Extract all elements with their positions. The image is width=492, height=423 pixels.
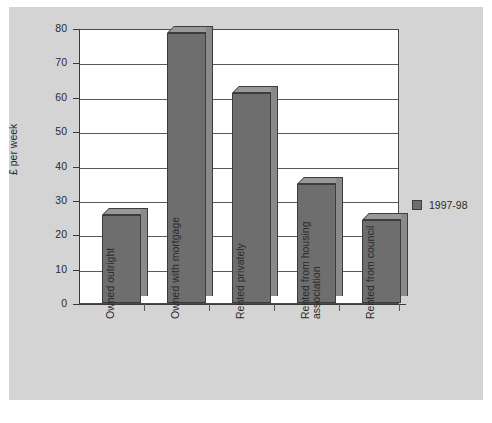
y-tick-label-70: 70 [27,57,67,68]
y-tick-70 [73,63,80,64]
x-label-rented-from-housing-association-line2: association [311,266,322,319]
y-axis-title: £ per week [7,85,19,175]
chart-figure: 80 70 60 50 40 30 20 10 0 £ per week Own… [9,7,483,400]
y-tick-label-40: 40 [27,161,67,172]
y-tick-label-0: 0 [27,298,67,309]
y-tick-label-20: 20 [27,229,67,240]
x-label-rented-privately: Rented privately [235,243,246,319]
x-label-owned-outright: Owned outright [105,248,116,319]
y-tick-10 [73,270,80,271]
y-tick-60 [73,98,80,99]
x-tick-4 [339,304,340,311]
chart-legend: 1997-98 [412,199,468,211]
bar-side-face [141,208,148,296]
bar-side-face [401,213,408,296]
y-tick-50 [73,132,80,133]
legend-label-1997-98: 1997-98 [429,199,468,211]
y-tick-label-60: 60 [27,92,67,103]
y-tick-40 [73,167,80,168]
x-tick-1 [144,304,145,311]
x-tick-2 [209,304,210,311]
x-tick-5 [399,304,400,311]
bar-side-face [206,26,213,296]
y-tick-label-80: 80 [27,23,67,34]
bar-side-face [336,177,343,296]
y-tick-label-10: 10 [27,264,67,275]
y-tick-label-50: 50 [27,126,67,137]
x-tick-3 [274,304,275,311]
legend-swatch-1997-98 [412,200,422,210]
y-tick-20 [73,235,80,236]
y-tick-30 [73,201,80,202]
x-label-rented-from-council: Rented from council [365,226,376,319]
y-tick-80 [73,29,80,30]
gridline-70 [80,64,398,65]
x-label-owned-with-mortgage: Owned with mortgage [170,217,181,319]
bar-side-face [271,86,278,296]
y-tick-label-30: 30 [27,195,67,206]
